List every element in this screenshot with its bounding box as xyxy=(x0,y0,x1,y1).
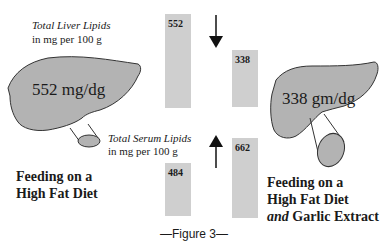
bar-liver-after: 338 xyxy=(232,50,258,107)
right-group-garlic: Garlic Extract xyxy=(289,209,379,224)
up-arrow-icon xyxy=(209,135,223,168)
bar-serum-before-label: 484 xyxy=(168,167,183,178)
left-liver-value: 552 mg/dg xyxy=(32,80,105,100)
bar-liver-after-label: 338 xyxy=(235,54,250,65)
bar-liver-before-label: 552 xyxy=(168,18,183,29)
bar-serum-after: 662 xyxy=(232,138,258,218)
bar-liver-before: 552 xyxy=(165,14,191,108)
right-liver-value: 338 gm/dg xyxy=(282,89,355,109)
right-group-label: Feeding on a High Fat Diet and Garlic Ex… xyxy=(267,174,379,225)
liver-lipids-title: Total Liver Lipids xyxy=(32,19,110,31)
serum-lipids-title: Total Serum Lipids xyxy=(108,132,191,144)
right-gallbladder xyxy=(313,130,349,171)
figure-label: —Figure 3— xyxy=(160,227,228,241)
bar-serum-before: 484 xyxy=(165,163,191,216)
right-group-line3: and Garlic Extract xyxy=(267,208,379,225)
serum-lipids-unit: in mg per 100 g xyxy=(108,145,178,157)
left-gallbladder xyxy=(78,135,100,147)
bar-serum-after-label: 662 xyxy=(235,142,250,153)
right-group-line2: High Fat Diet xyxy=(267,191,379,208)
down-arrow-icon xyxy=(209,15,223,48)
right-group-and: and xyxy=(267,209,289,224)
left-group-line1: Feeding on a xyxy=(16,168,98,185)
right-group-line1: Feeding on a xyxy=(267,174,379,191)
left-group-line2: High Fat Diet xyxy=(16,185,98,202)
liver-lipids-unit: in mg per 100 g xyxy=(32,33,102,45)
left-group-label: Feeding on a High Fat Diet xyxy=(16,168,98,202)
